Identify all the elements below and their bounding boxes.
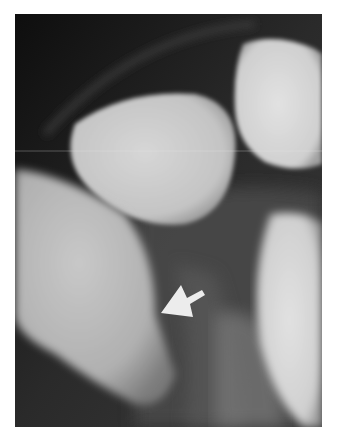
radiograph-image xyxy=(15,14,322,427)
radiograph-svg xyxy=(15,14,322,427)
